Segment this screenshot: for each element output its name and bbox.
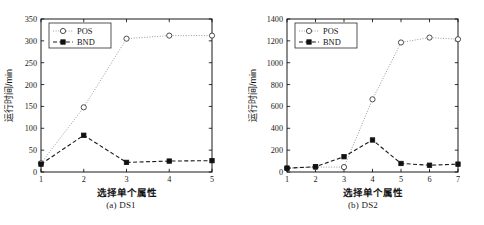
chart-panel-a: 05010015020025030035012345POSBND选择单个属性运行…	[0, 0, 242, 225]
data-point-bnd	[399, 161, 403, 165]
y-tick-label: 50	[29, 146, 37, 155]
y-tick-label: 1200	[267, 37, 283, 46]
x-tick-label: 5	[210, 175, 214, 184]
y-tick-label: 600	[271, 102, 283, 111]
y-axis-label: 运行时间/min	[3, 69, 14, 122]
x-tick-label: 7	[456, 175, 460, 184]
data-point-bnd	[370, 138, 374, 142]
y-tick-label: 250	[25, 59, 37, 68]
y-tick-label: 1000	[267, 59, 283, 68]
data-point-bnd	[285, 166, 289, 170]
data-point-bnd	[210, 158, 214, 162]
chart-svg-b: 02004006008001000120014001234567POSBND选择…	[242, 0, 484, 225]
x-tick-label: 4	[370, 175, 374, 184]
data-point-pos	[209, 33, 214, 38]
data-point-bnd	[427, 163, 431, 167]
x-tick-label: 6	[427, 175, 431, 184]
data-point-pos	[427, 35, 432, 40]
data-point-bnd	[313, 165, 317, 169]
x-tick-label: 4	[167, 175, 171, 184]
x-tick-label: 2	[313, 175, 317, 184]
data-point-bnd	[342, 155, 346, 159]
data-point-pos	[81, 105, 86, 110]
x-tick-label: 3	[124, 175, 128, 184]
legend-marker-bnd	[307, 40, 311, 44]
x-tick-label: 3	[342, 175, 346, 184]
x-tick-label: 5	[399, 175, 403, 184]
y-tick-label: 350	[25, 15, 37, 24]
x-tick-label: 1	[285, 175, 289, 184]
x-tick-label: 1	[39, 175, 43, 184]
data-point-bnd	[456, 162, 460, 166]
legend-marker-pos	[60, 28, 65, 33]
x-tick-label: 2	[82, 175, 86, 184]
legend-label-pos: POS	[77, 27, 93, 36]
y-tick-label: 0	[279, 168, 283, 177]
data-point-bnd	[167, 159, 171, 163]
panel-caption-b: (b) DS2	[242, 200, 484, 210]
y-tick-label: 300	[25, 37, 37, 46]
data-point-pos	[167, 33, 172, 38]
y-tick-label: 800	[271, 81, 283, 90]
y-tick-label: 0	[33, 168, 37, 177]
y-tick-label: 200	[271, 146, 283, 155]
y-tick-label: 100	[25, 124, 37, 133]
chart-panel-b: 02004006008001000120014001234567POSBND选择…	[242, 0, 484, 225]
data-point-bnd	[124, 160, 128, 164]
y-tick-label: 200	[25, 81, 37, 90]
x-axis-label: 选择单个属性	[343, 187, 403, 198]
y-tick-label: 400	[271, 124, 283, 133]
data-point-pos	[455, 37, 460, 42]
data-point-pos	[341, 164, 346, 169]
data-point-bnd	[82, 133, 86, 137]
data-point-pos	[370, 97, 375, 102]
legend-label-bnd: BND	[77, 38, 95, 47]
legend-label-bnd: BND	[323, 38, 341, 47]
data-point-pos	[398, 40, 403, 45]
data-point-pos	[124, 36, 129, 41]
legend-marker-pos	[306, 28, 311, 33]
chart-svg-a: 05010015020025030035012345POSBND选择单个属性运行…	[0, 0, 242, 225]
legend-label-pos: POS	[323, 27, 339, 36]
panel-caption-a: (a) DS1	[0, 200, 242, 210]
x-axis-label: 选择单个属性	[97, 187, 157, 198]
legend-marker-bnd	[61, 40, 65, 44]
data-point-bnd	[39, 162, 43, 166]
figure-container: 05010015020025030035012345POSBND选择单个属性运行…	[0, 0, 484, 225]
y-axis-label: 运行时间/min	[247, 69, 258, 122]
y-tick-label: 150	[25, 102, 37, 111]
y-tick-label: 1400	[267, 15, 283, 24]
